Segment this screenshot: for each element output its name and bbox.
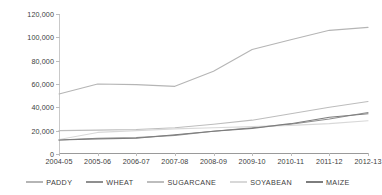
legend-line-icon — [86, 181, 103, 182]
legend-item-label: SOYABEAN — [250, 178, 292, 187]
legend-item-paddy[interactable]: PADDY — [26, 178, 72, 187]
legend-line-icon — [306, 181, 323, 182]
legend-line-icon — [147, 181, 164, 182]
x-axis-tick-label: 2004-05 — [45, 157, 72, 166]
legend-item-sugarcane[interactable]: SUGARCANE — [147, 178, 216, 187]
x-axis-tick-mark — [136, 153, 137, 156]
legend-item-label: MAIZE — [326, 178, 350, 187]
legend-item-maize[interactable]: MAIZE — [306, 178, 350, 187]
x-axis-tick-label: 2010-11 — [277, 157, 304, 166]
x-axis-tick-label: 2011-12 — [316, 157, 343, 166]
x-axis-tick-label: 2012-13 — [354, 157, 381, 166]
x-axis-tick-mark — [175, 153, 176, 156]
x-axis-tick-mark — [368, 153, 369, 156]
series-line-maize — [59, 114, 368, 140]
legend-item-label: PADDY — [46, 178, 72, 187]
legend-line-icon — [26, 181, 43, 182]
legend-line-icon — [230, 181, 247, 182]
series-line-sugarcane — [59, 102, 368, 131]
series-line-wheat — [59, 113, 368, 140]
x-axis-tick-mark — [252, 153, 253, 156]
legend-item-label: WHEAT — [106, 178, 133, 187]
legend-item-label: SUGARCANE — [167, 178, 216, 187]
x-axis-tick-label: 2009-10 — [239, 157, 266, 166]
x-axis-tick-mark — [291, 153, 292, 156]
x-axis-tick-mark — [329, 153, 330, 156]
x-axis-tick-mark — [98, 153, 99, 156]
x-axis-labels: 2004-052005-062006-072007-082008-092009-… — [59, 157, 369, 171]
legend-item-wheat[interactable]: WHEAT — [86, 178, 133, 187]
x-axis-tick-label: 2006-07 — [123, 157, 150, 166]
legend-item-soyabean[interactable]: SOYABEAN — [230, 178, 292, 187]
x-axis-tick-label: 2007-08 — [161, 157, 188, 166]
x-axis-tick-mark — [214, 153, 215, 156]
x-axis-tick-label: 2005-06 — [84, 157, 111, 166]
series-line-paddy — [59, 27, 368, 94]
chart-legend: PADDYWHEATSUGARCANESOYABEANMAIZE — [0, 174, 376, 190]
x-axis-tick-mark — [59, 153, 60, 156]
x-axis-tick-label: 2008-09 — [200, 157, 227, 166]
